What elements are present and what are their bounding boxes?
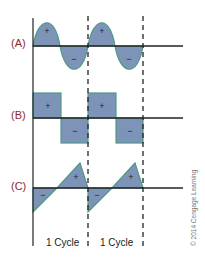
cycle-label-1: 1 Cycle xyxy=(46,237,79,248)
svg-text:+: + xyxy=(128,172,133,182)
label-a: (A) xyxy=(11,37,26,49)
svg-text:−: − xyxy=(40,190,45,200)
svg-text:−: − xyxy=(127,126,132,136)
copyright-text: © 2014 Cengage Learning xyxy=(190,170,197,246)
svg-text:−: − xyxy=(126,54,131,64)
svg-text:+: + xyxy=(99,26,104,36)
svg-text:+: + xyxy=(45,101,50,111)
waveform-diagram: +− +− +− +− +− +− xyxy=(0,0,205,264)
cycle-label-2: 1 Cycle xyxy=(100,237,133,248)
svg-text:+: + xyxy=(44,26,49,36)
label-c: (C) xyxy=(11,180,26,192)
svg-text:+: + xyxy=(73,172,78,182)
svg-text:−: − xyxy=(72,126,77,136)
label-b: (B) xyxy=(11,109,26,121)
svg-text:−: − xyxy=(94,190,99,200)
svg-text:−: − xyxy=(71,54,76,64)
svg-text:+: + xyxy=(99,101,104,111)
